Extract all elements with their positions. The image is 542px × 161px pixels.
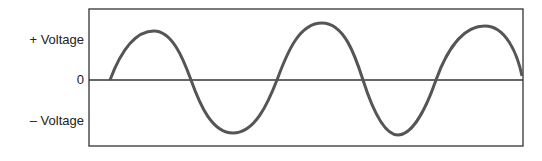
voltage-waveform (110, 23, 522, 135)
waveform-diagram (0, 0, 542, 161)
